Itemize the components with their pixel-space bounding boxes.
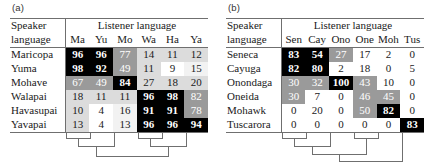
cell-a-0-2: 77 [113,48,137,63]
cell-a-3-5: 82 [184,90,208,104]
cell-b-1-5: 5 [400,62,424,76]
dendrogram-a-svg [10,132,210,166]
cell-b-3-4: 45 [377,90,401,104]
cell-a-2-4: 18 [161,76,185,90]
matrix-table-a-wrapper: Speaker Listener language language Ma Yu… [10,18,208,133]
cell-b-0-2: 27 [329,48,353,63]
panel-b: (b) Speaker Listener language language S… [216,0,431,167]
row-label-a-2: Mohave [10,76,66,90]
col-header-b-0: Sen [282,33,306,48]
cell-b-4-0: 0 [282,104,306,118]
cell-b-1-2: 2 [329,62,353,76]
row-label-b-2: Onondaga [226,76,282,90]
cell-a-4-3: 91 [137,104,161,118]
cell-a-0-0: 96 [66,48,90,63]
dendrogram-b-svg [226,132,426,166]
row-label-a-1: Yuma [10,62,66,76]
matrix-table-b: Speaker Listener language language Sen C… [226,18,424,133]
cell-b-4-1: 20 [305,104,329,118]
cell-b-3-3: 46 [353,90,377,104]
col-header-a-3: Wa [137,33,161,48]
table-row: Mohave 67 49 84 27 18 20 [10,76,208,90]
listener-language-header-b: Listener language [282,19,425,34]
cell-a-4-2: 16 [113,104,137,118]
dendrogram-b [226,132,426,166]
cell-b-5-4: 0 [377,118,401,133]
cell-b-2-0: 30 [282,76,306,90]
cell-a-2-3: 27 [137,76,161,90]
listener-language-header-a: Listener language [66,19,209,34]
col-header-a-4: Ha [161,33,185,48]
row-label-a-5: Yavapai [10,118,66,133]
table-row: Tuscarora 0 0 0 0 0 83 [226,118,424,133]
cell-a-3-3: 96 [137,90,161,104]
row-label-a-0: Maricopa [10,48,66,63]
col-header-a-2: Mo [113,33,137,48]
cell-a-5-4: 96 [161,118,185,133]
row-label-b-4: Mohawk [226,104,282,118]
cell-b-4-5: 0 [400,104,424,118]
table-b-header-row-2: language Sen Cay Ono One Moh Tus [226,33,424,48]
cell-a-3-1: 11 [89,90,113,104]
cell-a-5-1: 4 [89,118,113,133]
cell-b-0-0: 83 [282,48,306,63]
table-row: Walapai 18 11 11 96 98 82 [10,90,208,104]
cell-b-0-3: 17 [353,48,377,63]
cell-a-4-0: 10 [66,104,90,118]
cell-b-2-3: 43 [353,76,377,90]
row-label-a-3: Walapai [10,90,66,104]
cell-a-1-3: 11 [137,62,161,76]
table-b-header-row-1: Speaker Listener language [226,19,424,34]
cell-a-2-0: 67 [66,76,90,90]
speaker-language-header-b-line2: language [226,33,282,48]
table-row: Oneida 30 7 0 46 45 0 [226,90,424,104]
matrix-table-a: Speaker Listener language language Ma Yu… [10,18,208,133]
cell-a-4-5: 78 [184,104,208,118]
table-row: Maricopa 96 96 77 14 11 12 [10,48,208,63]
col-header-a-5: Ya [184,33,208,48]
cell-b-4-3: 50 [353,104,377,118]
row-label-b-0: Seneca [226,48,282,63]
cell-a-0-1: 96 [89,48,113,63]
table-row: Yuma 98 92 49 11 9 15 [10,62,208,76]
cell-b-3-5: 0 [400,90,424,104]
panel-a: (a) Speaker Listener language language M… [0,0,215,167]
cell-a-3-0: 18 [66,90,90,104]
table-row: Mohawk 0 20 0 50 82 0 [226,104,424,118]
cell-a-0-5: 12 [184,48,208,63]
speaker-language-header-line1: Speaker [10,19,66,34]
row-label-b-5: Tuscarora [226,118,282,133]
cell-b-1-1: 80 [305,62,329,76]
matrix-table-b-wrapper: Speaker Listener language language Sen C… [226,18,424,133]
panel-b-label: (b) [228,2,240,13]
row-label-b-3: Oneida [226,90,282,104]
cell-a-5-2: 13 [113,118,137,133]
cell-a-4-1: 4 [89,104,113,118]
cell-b-1-3: 18 [353,62,377,76]
cell-b-5-5: 83 [400,118,424,133]
table-a-header-row-2: language Ma Yu Mo Wa Ha Ya [10,33,208,48]
cell-b-1-4: 0 [377,62,401,76]
table-row: Yavapai 13 4 13 96 96 94 [10,118,208,133]
figure-container: (a) Speaker Listener language language M… [0,0,431,167]
cell-b-5-2: 0 [329,118,353,133]
cell-b-0-5: 0 [400,48,424,63]
col-header-b-2: Ono [329,33,353,48]
cell-a-1-0: 98 [66,62,90,76]
cell-b-2-4: 10 [377,76,401,90]
cell-a-5-3: 96 [137,118,161,133]
cell-b-0-4: 2 [377,48,401,63]
cell-a-1-1: 92 [89,62,113,76]
cell-b-1-0: 82 [282,62,306,76]
col-header-b-1: Cay [305,33,329,48]
row-label-a-4: Havasupai [10,104,66,118]
cell-a-0-3: 14 [137,48,161,63]
table-row: Seneca 83 54 27 17 2 0 [226,48,424,63]
panel-a-label: (a) [12,2,24,13]
speaker-language-header-b-line1: Speaker [226,19,282,34]
cell-a-3-2: 11 [113,90,137,104]
table-row: Cayuga 82 80 2 18 0 5 [226,62,424,76]
cell-a-4-4: 91 [161,104,185,118]
cell-a-3-4: 98 [161,90,185,104]
cell-a-5-0: 13 [66,118,90,133]
